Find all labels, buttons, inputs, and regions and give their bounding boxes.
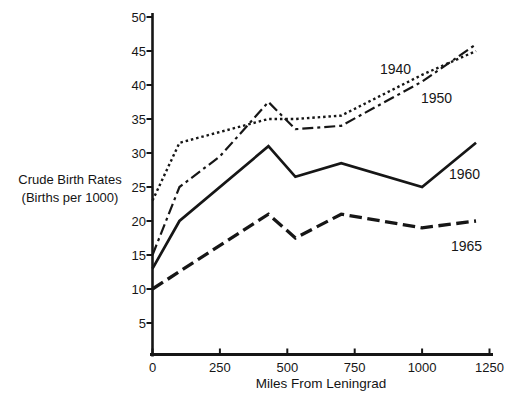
x-tick-label: 1250 bbox=[475, 360, 504, 375]
y-tick-label: 35 bbox=[132, 112, 146, 127]
y-tick-label: 40 bbox=[132, 78, 146, 93]
x-tick-label: 0 bbox=[149, 360, 156, 375]
y-tick-label: 5 bbox=[139, 316, 146, 331]
series-label-1950: 1950 bbox=[421, 90, 452, 106]
birth-rate-chart: 0250500750100012505101520253035404550194… bbox=[0, 0, 518, 411]
y-tick-label: 15 bbox=[132, 248, 146, 263]
series-label-1960: 1960 bbox=[449, 166, 480, 182]
series-line-1965 bbox=[153, 214, 477, 289]
y-tick-label: 50 bbox=[132, 10, 146, 25]
series-line-1940 bbox=[153, 51, 477, 201]
y-tick-label: 30 bbox=[132, 146, 146, 161]
y-tick-label: 20 bbox=[132, 214, 146, 229]
x-axis-title: Miles From Leningrad bbox=[152, 376, 490, 391]
series-label-1940: 1940 bbox=[380, 61, 411, 77]
y-tick-label: 45 bbox=[132, 44, 146, 59]
x-tick-label: 250 bbox=[209, 360, 231, 375]
series-line-1960 bbox=[153, 143, 477, 269]
y-axis-title: Crude Birth Rates (Births per 1000) bbox=[6, 171, 134, 207]
x-tick-label: 500 bbox=[276, 360, 298, 375]
y-axis-title-line1: Crude Birth Rates bbox=[6, 171, 134, 189]
y-tick-label: 10 bbox=[132, 282, 146, 297]
y-axis-title-line2: (Births per 1000) bbox=[6, 189, 134, 207]
x-tick-label: 1000 bbox=[408, 360, 437, 375]
series-label-1965: 1965 bbox=[451, 238, 482, 254]
x-tick-label: 750 bbox=[344, 360, 366, 375]
series-line-1950 bbox=[153, 44, 477, 255]
